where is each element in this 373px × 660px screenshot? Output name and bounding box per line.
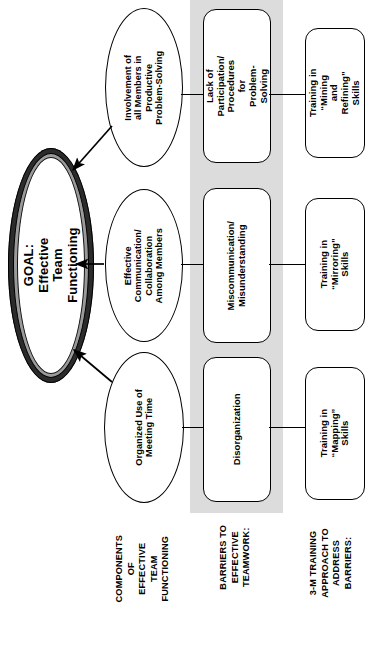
caption-label-training: 3-M TRAINING APPROACH TO ADDRESS BARRIER…	[308, 526, 354, 600]
component-ellipse-meeting-time[interactable]: Organized Use of Meeting Time	[104, 352, 184, 503]
component-label-involvement: Involvement of all Members in Productive…	[123, 51, 165, 125]
component-ellipse-involvement[interactable]: Involvement of all Members in Productive…	[105, 8, 183, 167]
connector-involvement-to-barrier	[181, 94, 204, 95]
training-label-mining-refining: Training in “Mining and Refining” Skills	[308, 64, 362, 122]
training-box-mining-refining[interactable]: Training in “Mining and Refining” Skills	[305, 28, 365, 158]
barrier-label-lack-participation: Lack of Participation/ Procedures for Pr…	[205, 53, 269, 119]
caption-label-barriers: BARRIERS TO EFFECTIVE TEAMWORK:	[218, 525, 253, 590]
training-label-mirroring: Training in “Mirroring” Skills	[319, 235, 351, 293]
training-box-mirroring[interactable]: Training in “Mirroring” Skills	[305, 198, 365, 331]
diagram-canvas: GOAL: Effective Team Functioning Involve…	[0, 0, 373, 660]
connector-barrier-to-training-mirroring	[269, 264, 306, 265]
barrier-box-lack-participation[interactable]: Lack of Participation/ Procedures for Pr…	[203, 9, 271, 163]
goal-node[interactable]: GOAL: Effective Team Functioning	[8, 148, 94, 383]
training-label-mapping: Training in “Mapping” Skills	[319, 404, 351, 462]
connector-barrier-to-training-mining	[269, 94, 306, 95]
component-ellipse-communication[interactable]: Effective Communication/ Collaboration A…	[105, 189, 183, 342]
barrier-label-miscommunication: Miscommunication/ Misunderstanding	[226, 221, 247, 311]
component-label-communication: Effective Communication/ Collaboration A…	[123, 228, 165, 303]
caption-components: COMPONENTS OF EFFECTIVE TEAM FUNCTIONING	[104, 540, 182, 652]
barrier-label-disorganization: Disorganization	[232, 394, 243, 466]
caption-barriers: BARRIERS TO EFFECTIVE TEAMWORK:	[198, 540, 272, 652]
training-box-mapping[interactable]: Training in “Mapping” Skills	[305, 367, 365, 500]
caption-training: 3-M TRAINING APPROACH TO ADDRESS BARRIER…	[294, 540, 368, 660]
connector-meeting-time-to-barrier	[182, 427, 204, 428]
barrier-box-disorganization[interactable]: Disorganization	[203, 357, 271, 502]
caption-label-components: COMPONENTS OF EFFECTIVE TEAM FUNCTIONING	[114, 530, 172, 608]
component-label-meeting-time: Organized Use of Meeting Time	[134, 389, 155, 465]
barrier-box-miscommunication[interactable]: Miscommunication/ Misunderstanding	[203, 188, 271, 343]
goal-label: GOAL: Effective Team Functioning	[22, 223, 80, 309]
connector-communication-to-barrier	[181, 264, 204, 265]
goal-label-wrap: GOAL: Effective Team Functioning	[8, 148, 94, 383]
connector-barrier-to-training-mapping	[269, 427, 306, 428]
